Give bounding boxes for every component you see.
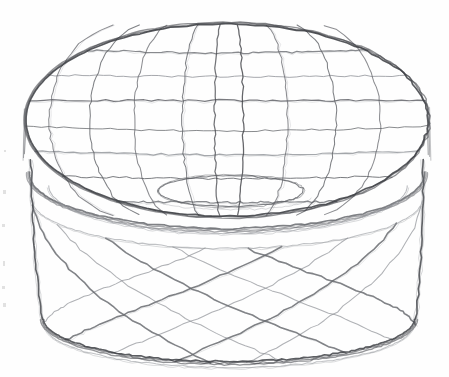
- sketch-canvas: [0, 0, 449, 377]
- scan-speck: [3, 190, 6, 194]
- scan-speck: [2, 286, 5, 289]
- scan-speck: [2, 224, 5, 227]
- scan-speck: [3, 261, 5, 266]
- scan-speck: [3, 303, 6, 307]
- scan-speck: [4, 150, 6, 152]
- box-sketch-svg: [0, 0, 449, 377]
